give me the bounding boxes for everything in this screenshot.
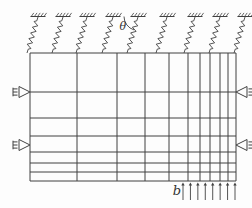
plate-mesh-diagram: θ b bbox=[0, 0, 252, 208]
load-b-label: b bbox=[173, 183, 181, 198]
load-arrows bbox=[181, 183, 236, 201]
figure-canvas: θ b bbox=[0, 0, 252, 208]
mesh-grid bbox=[30, 53, 236, 181]
angle-theta-label: θ bbox=[119, 20, 126, 33]
spring-supports bbox=[27, 13, 252, 53]
